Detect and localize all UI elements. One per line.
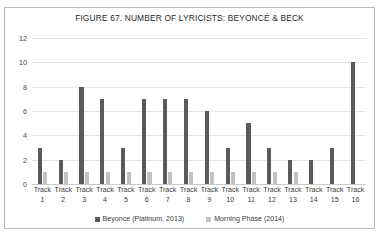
legend-label: Morning Phase (2014) (214, 215, 284, 223)
y-tick-label: 2 (23, 155, 27, 164)
x-tick-label-number: 13 (283, 196, 304, 206)
y-axis: 024681012 (5, 38, 30, 184)
bar (147, 172, 151, 184)
bar-group (303, 38, 324, 184)
x-tick-label: Track7 (157, 186, 178, 205)
x-tick-label-word: Track (220, 186, 241, 196)
x-tick-label: Track8 (178, 186, 199, 205)
bar (168, 172, 172, 184)
bar (231, 172, 235, 184)
x-tick-label: Track2 (53, 186, 74, 205)
bar (351, 62, 355, 184)
x-tick-label-word: Track (116, 186, 137, 196)
bar (64, 172, 68, 184)
x-tick-label-word: Track (283, 186, 304, 196)
x-tick-label-number: 3 (74, 196, 95, 206)
legend-item[interactable]: Beyonce (Platinum, 2013) (95, 215, 185, 223)
bar-group (324, 38, 345, 184)
bar (288, 160, 292, 184)
bar (59, 160, 63, 184)
y-tick-label: 8 (23, 82, 27, 91)
x-tick-label: Track16 (345, 186, 366, 205)
x-tick-label-number: 12 (262, 196, 283, 206)
x-tick-label: Track3 (74, 186, 95, 205)
bar (226, 148, 230, 185)
x-tick-label-number: 10 (220, 196, 241, 206)
bar-group (241, 38, 262, 184)
bar-group (199, 38, 220, 184)
bar (127, 172, 131, 184)
bar-group (74, 38, 95, 184)
x-tick-label-number: 15 (324, 196, 345, 206)
x-tick-label-word: Track (345, 186, 366, 196)
bar-group (283, 38, 304, 184)
bar (43, 172, 47, 184)
x-tick-label: Track10 (220, 186, 241, 205)
chart-legend: Beyonce (Platinum, 2013)Morning Phase (2… (5, 215, 374, 223)
bar-group (32, 38, 53, 184)
bar-group (53, 38, 74, 184)
bar (205, 111, 209, 184)
x-tick-label-word: Track (32, 186, 53, 196)
figure-container: FIGURE 67. NUMBER OF LYRICISTS: BEYONCÉ … (4, 7, 375, 229)
x-tick-label-word: Track (136, 186, 157, 196)
y-tick-label: 4 (23, 131, 27, 140)
x-tick-label: Track15 (324, 186, 345, 205)
x-tick-label: Track12 (262, 186, 283, 205)
x-tick-label-number: 6 (136, 196, 157, 206)
y-tick-label: 12 (19, 34, 27, 43)
x-tick-label-number: 16 (345, 196, 366, 206)
bar-group (345, 38, 366, 184)
bar (79, 87, 83, 184)
bar (142, 99, 146, 184)
bar (252, 172, 256, 184)
x-tick-label-number: 1 (32, 196, 53, 206)
x-tick-label-word: Track (324, 186, 345, 196)
x-tick-label-number: 5 (116, 196, 137, 206)
x-tick-label-word: Track (157, 186, 178, 196)
x-tick-label-number: 8 (178, 196, 199, 206)
y-tick-label: 10 (19, 58, 27, 67)
x-tick-label-number: 7 (157, 196, 178, 206)
plot-area (32, 38, 366, 184)
bar (246, 123, 250, 184)
bar (330, 148, 334, 185)
bar (210, 172, 214, 184)
x-tick-label: Track5 (116, 186, 137, 205)
x-tick-label-word: Track (95, 186, 116, 196)
bar (85, 172, 89, 184)
chart-title: FIGURE 67. NUMBER OF LYRICISTS: BEYONCÉ … (5, 13, 374, 23)
x-tick-label: Track1 (32, 186, 53, 205)
legend-item[interactable]: Morning Phase (2014) (206, 215, 284, 223)
x-tick-label-word: Track (303, 186, 324, 196)
x-tick-label-word: Track (262, 186, 283, 196)
bar-group (178, 38, 199, 184)
bars-layer (32, 38, 366, 184)
y-tick-label: 0 (23, 180, 27, 189)
bar (100, 99, 104, 184)
x-tick-label: Track13 (283, 186, 304, 205)
bar-group (136, 38, 157, 184)
x-tick-label: Track11 (241, 186, 262, 205)
x-tick-label: Track14 (303, 186, 324, 205)
bar (189, 172, 193, 184)
legend-swatch-icon (206, 217, 211, 222)
x-axis: Track1Track2Track3Track4Track5Track6Trac… (32, 186, 366, 212)
bar (121, 148, 125, 185)
bar (309, 160, 313, 184)
x-tick-label-word: Track (178, 186, 199, 196)
bar (38, 148, 42, 185)
bar-group (220, 38, 241, 184)
legend-swatch-icon (95, 217, 100, 222)
x-tick-label-number: 11 (241, 196, 262, 206)
bar (267, 148, 271, 185)
bar (184, 99, 188, 184)
x-tick-label: Track4 (95, 186, 116, 205)
bar (294, 172, 298, 184)
bar-group (95, 38, 116, 184)
x-tick-label-number: 14 (303, 196, 324, 206)
bar-group (262, 38, 283, 184)
x-tick-label: Track6 (136, 186, 157, 205)
x-tick-label-word: Track (199, 186, 220, 196)
bar-group (116, 38, 137, 184)
